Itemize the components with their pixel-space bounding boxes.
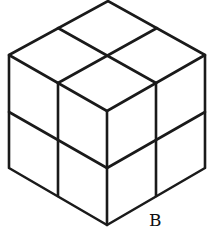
top-face-grid xyxy=(58,28,157,83)
cube-outline xyxy=(9,1,205,225)
cube-diagram: B xyxy=(0,0,221,236)
right-face-grid xyxy=(107,83,205,196)
left-face-grid xyxy=(9,83,107,196)
vertex-label-b: B xyxy=(149,210,162,230)
